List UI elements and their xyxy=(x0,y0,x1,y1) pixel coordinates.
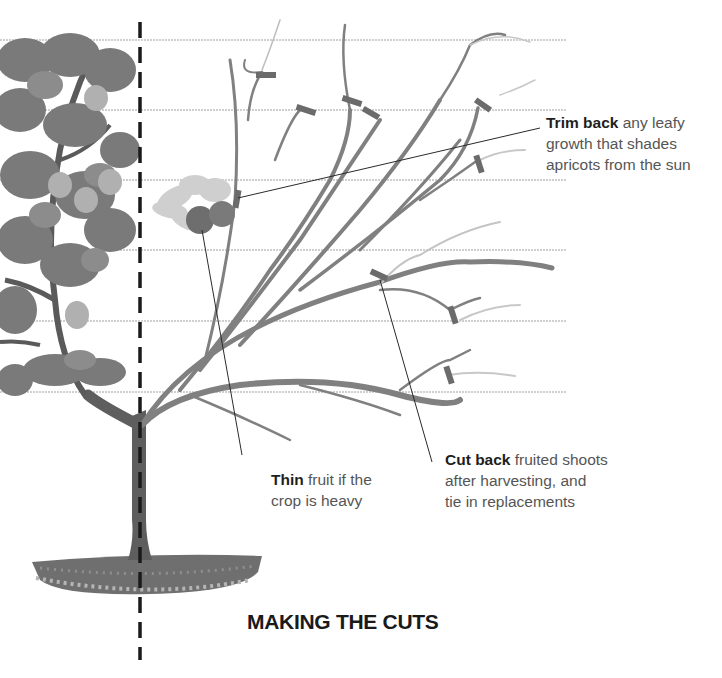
leafy-shoot-with-fruit xyxy=(151,175,235,235)
ground-soil xyxy=(32,555,262,594)
diagram-illustration xyxy=(0,0,722,678)
diagram-title: MAKING THE CUTS xyxy=(247,610,439,634)
leafy-tree xyxy=(0,33,140,396)
annotation-bold: Cut back xyxy=(445,451,510,468)
annotation-bold: Thin xyxy=(271,471,304,488)
annotation-bold: Trim back xyxy=(546,114,618,131)
cut-marks xyxy=(232,72,492,384)
pruning-diagram: Trim back any leafy growth that shades a… xyxy=(0,0,722,678)
annotation-thin: Thin fruit if the crop is heavy xyxy=(271,469,421,511)
annotation-trim-back: Trim back any leafy growth that shades a… xyxy=(546,112,722,175)
annotation-cut-back: Cut back fruited shoots after harvesting… xyxy=(445,449,645,512)
